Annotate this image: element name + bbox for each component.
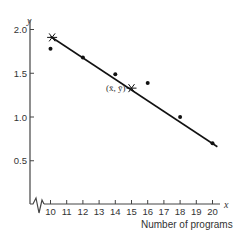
x-axis-variable: x	[223, 199, 229, 210]
scatter-chart: 1011121314151617181920 0.51.01.52.0 y x …	[0, 0, 251, 241]
y-axis-variable: y	[26, 15, 32, 26]
mean-point-label: (x̄, ȳ)	[106, 83, 126, 93]
x-axis-break	[30, 198, 44, 213]
y-ticks: 0.51.01.52.0	[14, 24, 34, 166]
x-tick-label: 18	[175, 206, 186, 217]
x-tick-label: 15	[126, 206, 137, 217]
y-tick-label: 2.0	[14, 24, 27, 35]
x-tick-label: 20	[207, 206, 218, 217]
x-tick-label: 14	[110, 206, 121, 217]
x-tick-label: 16	[142, 206, 153, 217]
data-point	[211, 141, 215, 145]
y-tick-label: 1.0	[14, 112, 27, 123]
x-tick-label: 13	[94, 206, 105, 217]
x-tick-label: 12	[78, 206, 89, 217]
data-point	[49, 47, 53, 51]
x-tick-label: 10	[45, 206, 56, 217]
data-point	[81, 56, 85, 60]
x-tick-label: 19	[191, 206, 202, 217]
star-marker	[127, 84, 137, 92]
data-point	[178, 115, 182, 119]
axes	[30, 20, 220, 213]
x-tick-label: 17	[159, 206, 170, 217]
y-tick-label: 0.5	[14, 155, 27, 166]
data-point	[113, 72, 117, 76]
x-tick-label: 11	[62, 206, 72, 217]
x-axis-label: Number of programs	[141, 219, 233, 230]
x-ticks: 1011121314151617181920	[45, 200, 218, 217]
data-point	[146, 81, 150, 85]
data-points	[49, 47, 215, 146]
y-tick-label: 1.5	[14, 68, 27, 79]
